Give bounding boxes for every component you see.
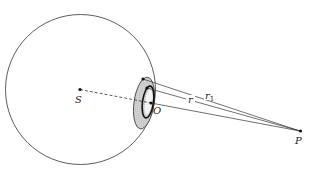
label-p: P [294, 135, 302, 146]
label-o: O [153, 105, 161, 116]
line-o-p [151, 103, 300, 131]
point-p [299, 129, 302, 132]
line-r [147, 88, 300, 131]
point-inner [145, 86, 148, 89]
diagram-canvas: r r1 S O P [0, 0, 312, 170]
point-s [78, 88, 81, 91]
line-r1 [143, 79, 300, 131]
label-s: S [75, 94, 82, 105]
point-outer [141, 77, 144, 80]
